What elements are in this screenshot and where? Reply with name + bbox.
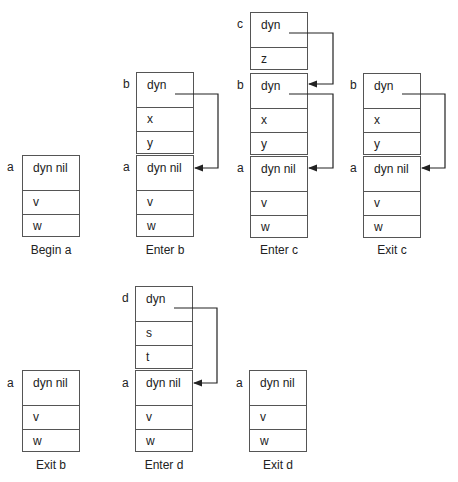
dynamic-link-arrow: [289, 94, 333, 168]
dynamic-link-arrow: [402, 94, 445, 168]
dynamic-link-arrow: [175, 94, 218, 168]
dynamic-link-arrows: [0, 0, 458, 482]
dynamic-link-arrow: [174, 308, 217, 383]
dynamic-link-arrow: [289, 33, 333, 84]
